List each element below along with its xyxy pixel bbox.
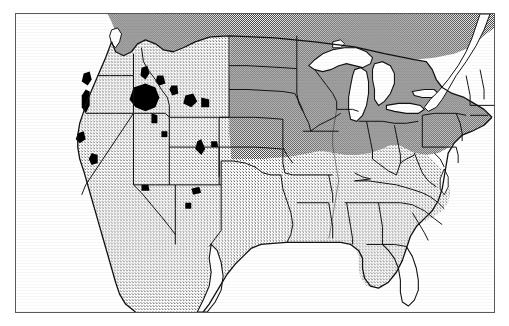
lake-blob-mead <box>141 185 149 191</box>
lake-blob-nm <box>185 203 191 209</box>
us-map-graphic <box>16 14 494 312</box>
map-border <box>15 13 495 313</box>
figure-root <box>0 0 509 326</box>
lake-blob-wyoming <box>161 131 167 137</box>
lake-blob-colorado-b <box>211 141 218 147</box>
